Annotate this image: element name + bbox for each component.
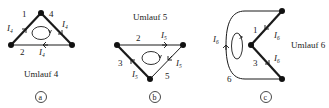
diagram-badge-label: c bbox=[264, 93, 268, 102]
node-dot bbox=[248, 42, 254, 48]
loop-title: Umlauf 6 bbox=[291, 40, 326, 50]
node-dot bbox=[69, 42, 75, 48]
mesh-loop-diagrams: 1 4 2 I 4 I 4 I 4 Umlauf 4 a Umlauf 5 2 … bbox=[0, 0, 329, 108]
current-subscript: 6 bbox=[277, 58, 280, 64]
branch-number: 1 bbox=[253, 25, 258, 35]
clockwise-loop-icon bbox=[32, 27, 50, 40]
branch-number: 2 bbox=[20, 47, 25, 57]
branch-number: 3 bbox=[118, 58, 123, 68]
diagram-c: 1 3 6 I 6 I 6 I 6 Umlauf 6 c bbox=[212, 8, 326, 103]
node-dot bbox=[279, 76, 285, 82]
node-dot bbox=[279, 8, 285, 14]
current-subscript: 4 bbox=[10, 28, 13, 34]
loop-title: Umlauf 5 bbox=[133, 12, 168, 22]
branch-number: 3 bbox=[253, 58, 258, 68]
current-subscript: 4 bbox=[65, 24, 68, 30]
branch-number: 1 bbox=[22, 9, 27, 19]
node-dot bbox=[147, 76, 153, 82]
current-subscript: 5 bbox=[135, 74, 138, 80]
branch-number: 5 bbox=[165, 71, 170, 81]
clockwise-loop-icon bbox=[232, 33, 243, 59]
diagram-badge-label: b bbox=[153, 93, 157, 102]
branch-number: 4 bbox=[49, 9, 54, 19]
current-arrow-icon bbox=[168, 56, 172, 60]
node-dot bbox=[180, 42, 186, 48]
current-subscript: 6 bbox=[216, 39, 219, 45]
loop-title: Umlauf 4 bbox=[24, 69, 59, 79]
node-dot bbox=[114, 42, 120, 48]
current-subscript: 6 bbox=[277, 35, 280, 41]
node-dot bbox=[8, 42, 14, 48]
current-subscript: 4 bbox=[42, 52, 45, 58]
diagram-a: 1 4 2 I 4 I 4 I 4 Umlauf 4 a bbox=[6, 9, 75, 103]
node-dot bbox=[38, 10, 44, 16]
current-subscript: 5 bbox=[164, 35, 167, 41]
diagram-badge-label: a bbox=[39, 93, 43, 102]
branch-number: 6 bbox=[227, 74, 232, 84]
current-subscript: 5 bbox=[179, 63, 182, 69]
diagram-b: Umlauf 5 2 5 3 I 5 I 5 I 5 b bbox=[114, 12, 186, 103]
branch-number: 2 bbox=[136, 33, 141, 43]
clockwise-loop-icon bbox=[142, 52, 160, 65]
